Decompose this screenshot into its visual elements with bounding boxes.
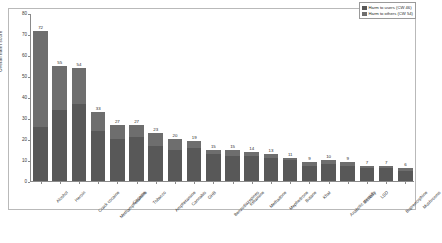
bar-value-label: 13 xyxy=(269,148,274,153)
bar-segment-harm-to-others xyxy=(33,31,48,127)
y-tick-label: 0 xyxy=(24,179,27,184)
bar-value-label: 10 xyxy=(326,154,331,159)
bar-slot: 19 xyxy=(185,14,204,181)
bar-mushrooms[interactable]: 6 xyxy=(398,168,413,181)
bar-segment-harm-to-others xyxy=(129,125,144,138)
y-tick-mark xyxy=(28,161,31,162)
bar-segment-harm-to-users xyxy=(244,156,259,181)
bar-segment-harm-to-users xyxy=(206,154,221,181)
y-tick-mark xyxy=(28,35,31,36)
bar-segment-harm-to-users xyxy=(187,148,202,181)
x-tick-mark xyxy=(60,181,61,184)
x-tick-label: LSD xyxy=(379,190,389,200)
bar-benzodiazepines[interactable]: 15 xyxy=(206,150,221,181)
bar-heroin[interactable]: 55 xyxy=(52,66,67,181)
bar-segment-harm-to-users xyxy=(360,168,375,181)
bar-alcohol[interactable]: 72 xyxy=(33,31,48,181)
bar-slot: 15 xyxy=(223,14,242,181)
x-tick-label: GHB xyxy=(207,190,217,200)
bar-slot: 23 xyxy=(146,14,165,181)
legend-label-others: Harm to others (CW 54) xyxy=(369,11,413,16)
bar-cannabis[interactable]: 20 xyxy=(168,139,183,181)
y-tick-label: 30 xyxy=(22,116,27,121)
x-tick-mark xyxy=(194,181,195,184)
y-tick-label: 40 xyxy=(22,95,27,100)
bar-slot: 7 xyxy=(357,14,376,181)
bar-segment-harm-to-users xyxy=(110,139,125,181)
bar-cocaine[interactable]: 27 xyxy=(110,125,125,181)
bar-value-label: 20 xyxy=(173,133,178,138)
bar-anabolic-steroids[interactable]: 10 xyxy=(321,160,336,181)
bar-tobacco[interactable]: 27 xyxy=(129,125,144,181)
bar-value-label: 11 xyxy=(288,152,293,157)
bar-value-label: 9 xyxy=(308,156,310,161)
x-tick-mark xyxy=(175,181,176,184)
bar-slot: 6 xyxy=(396,14,415,181)
y-tick-mark xyxy=(28,140,31,141)
bar-slot: 7 xyxy=(377,14,396,181)
bar-slot: 14 xyxy=(242,14,261,181)
bar-methamphetamine[interactable]: 33 xyxy=(91,112,106,181)
legend-label-users: Harm to users (CW 46) xyxy=(369,5,412,10)
x-tick-mark xyxy=(117,181,118,184)
y-tick-label: 60 xyxy=(22,53,27,58)
y-tick-label: 20 xyxy=(22,137,27,142)
y-tick-mark xyxy=(28,98,31,99)
bar-ketamine[interactable]: 15 xyxy=(225,150,240,181)
bar-value-label: 27 xyxy=(115,119,120,124)
bar-value-label: 23 xyxy=(153,127,158,132)
bar-ecstasy[interactable]: 9 xyxy=(340,162,355,181)
bar-segment-harm-to-users xyxy=(168,150,183,181)
bar-slot: 9 xyxy=(300,14,319,181)
y-tick-mark xyxy=(28,77,31,78)
bar-value-label: 19 xyxy=(192,135,197,140)
bar-value-label: 7 xyxy=(385,160,387,165)
x-tick-mark xyxy=(271,181,272,184)
bar-ghb[interactable]: 19 xyxy=(187,141,202,181)
bar-slot: 27 xyxy=(108,14,127,181)
y-tick-mark xyxy=(28,56,31,57)
bar-methadone[interactable]: 14 xyxy=(244,152,259,181)
x-tick-mark xyxy=(290,181,291,184)
bar-segment-harm-to-others xyxy=(91,112,106,131)
bar-slot: 33 xyxy=(89,14,108,181)
bar-butane[interactable]: 11 xyxy=(283,158,298,181)
bar-segment-harm-to-users xyxy=(302,166,317,181)
bar-mephedrone[interactable]: 13 xyxy=(264,154,279,181)
bar-value-label: 27 xyxy=(134,119,139,124)
x-tick-mark xyxy=(213,181,214,184)
bar-slot: 54 xyxy=(69,14,88,181)
bar-slot: 72 xyxy=(31,14,50,181)
x-tick-mark xyxy=(233,181,234,184)
legend-item-others: Harm to others (CW 54) xyxy=(362,11,413,17)
bar-lsd[interactable]: 7 xyxy=(360,166,375,181)
x-tick-mark xyxy=(252,181,253,184)
x-tick-mark xyxy=(405,181,406,184)
bar-khat[interactable]: 9 xyxy=(302,162,317,181)
x-tick-label: Alcohol xyxy=(55,190,69,204)
bar-segment-harm-to-users xyxy=(129,137,144,181)
bar-value-label: 54 xyxy=(77,62,82,67)
x-tick-label: Cocaine xyxy=(132,190,147,205)
bar-segment-harm-to-users xyxy=(91,131,106,181)
legend-item-users: Harm to users (CW 46) xyxy=(362,5,413,11)
legend: Harm to users (CW 46) Harm to others (CW… xyxy=(359,2,416,19)
bar-segment-harm-to-users xyxy=(72,104,87,181)
bar-crack-cocaine[interactable]: 54 xyxy=(72,68,87,181)
bar-amphetamine[interactable]: 23 xyxy=(148,133,163,181)
x-tick-label: Crack cocaine xyxy=(97,190,120,213)
bar-segment-harm-to-users xyxy=(398,171,413,181)
x-axis-labels: AlcoholHeroinCrack cocaineMethamphetamin… xyxy=(39,190,422,243)
x-tick-label: Tobacco xyxy=(151,190,166,205)
legend-swatch-icon-others xyxy=(362,12,367,16)
bar-buprenorphine[interactable]: 7 xyxy=(379,166,394,181)
bar-value-label: 72 xyxy=(38,25,43,30)
x-tick-mark xyxy=(79,181,80,184)
bar-slot: 9 xyxy=(338,14,357,181)
x-tick-mark xyxy=(309,181,310,184)
y-tick-label: 80 xyxy=(22,11,27,16)
y-tick-label: 50 xyxy=(22,74,27,79)
bar-segment-harm-to-users xyxy=(321,164,336,181)
bar-value-label: 9 xyxy=(347,156,349,161)
bar-slot: 15 xyxy=(204,14,223,181)
